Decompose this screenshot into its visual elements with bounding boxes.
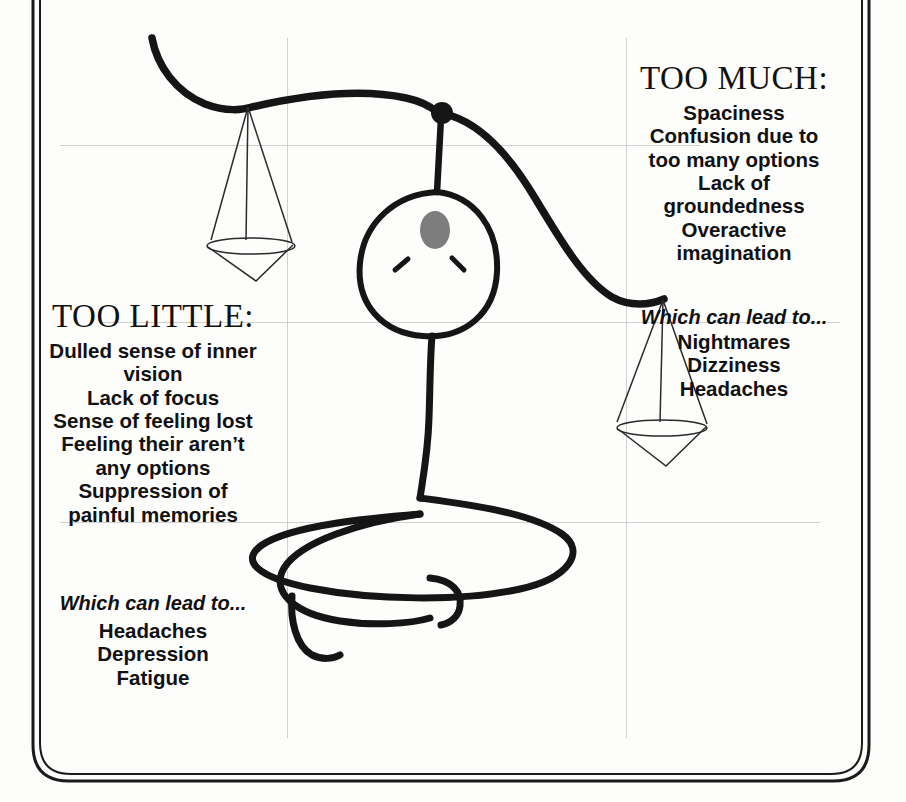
too-much-symptom: groundedness — [598, 194, 870, 217]
too-much-symptom: too many options — [598, 148, 870, 171]
too-little-symptom: any options — [20, 456, 286, 479]
torso-stroke — [420, 336, 432, 498]
left-pan-cone — [208, 245, 293, 281]
too-little-effect: Headaches — [20, 619, 286, 642]
too-much-effect-list: Nightmares Dizziness Headaches — [598, 330, 870, 400]
too-much-symptom: Lack of — [598, 171, 870, 194]
too-little-symptom: vision — [20, 362, 286, 385]
too-much-effect: Dizziness — [598, 353, 870, 376]
too-little-effect: Depression — [20, 642, 286, 665]
left-eye-closed-icon — [395, 259, 408, 270]
too-little-symptom: Lack of focus — [20, 386, 286, 409]
too-much-symptom: Spaciness — [598, 101, 870, 124]
right-pan-bowl-rim — [617, 420, 707, 436]
right-pan-cone — [618, 427, 706, 466]
too-little-symptom: Dulled sense of inner — [20, 339, 286, 362]
too-little-effects-column: Which can lead to... Headaches Depressio… — [20, 592, 286, 689]
too-little-heading: TOO LITTLE: — [20, 300, 286, 333]
right-eye-closed-icon — [452, 258, 464, 270]
left-pan-bowl-rim — [207, 238, 295, 254]
left-pan-string-outer-right — [248, 107, 292, 242]
too-much-heading: TOO MUCH: — [598, 62, 870, 95]
too-much-effects-column: Which can lead to... Nightmares Dizzines… — [598, 306, 870, 400]
too-little-symptom: Suppression of — [20, 479, 286, 502]
too-little-symptom: Feeling their aren’t — [20, 432, 286, 455]
too-little-lead-in: Which can lead to... — [20, 592, 286, 615]
too-little-symptom: painful memories — [20, 503, 286, 526]
too-much-effect: Nightmares — [598, 330, 870, 353]
too-much-symptom: imagination — [598, 241, 870, 264]
left-pan-string-center — [246, 107, 248, 240]
too-little-effect-list: Headaches Depression Fatigue — [20, 619, 286, 689]
right-foot-hook-stroke — [430, 578, 460, 625]
too-much-symptom: Confusion due to — [598, 124, 870, 147]
left-scale-pan — [207, 107, 295, 281]
too-little-column: TOO LITTLE: Dulled sense of inner vision… — [20, 300, 286, 526]
too-much-symptom-list: Spaciness Confusion due to too many opti… — [598, 101, 870, 265]
neck-stroke — [437, 118, 441, 192]
diagram-page: TOO MUCH: Spaciness Confusion due to too… — [0, 0, 906, 802]
third-eye-oval-icon — [420, 211, 450, 249]
too-much-column: TOO MUCH: Spaciness Confusion due to too… — [598, 62, 870, 265]
too-little-symptom-list: Dulled sense of inner vision Lack of foc… — [20, 339, 286, 526]
left-pan-string-outer-left — [211, 107, 248, 240]
too-little-symptom: Sense of feeling lost — [20, 409, 286, 432]
too-much-effect: Headaches — [598, 377, 870, 400]
left-arm-beam-stroke — [152, 38, 437, 112]
too-much-lead-in: Which can lead to... — [598, 306, 870, 329]
crown-dot-icon — [431, 102, 453, 124]
too-much-symptom: Overactive — [598, 218, 870, 241]
too-little-effect: Fatigue — [20, 666, 286, 689]
